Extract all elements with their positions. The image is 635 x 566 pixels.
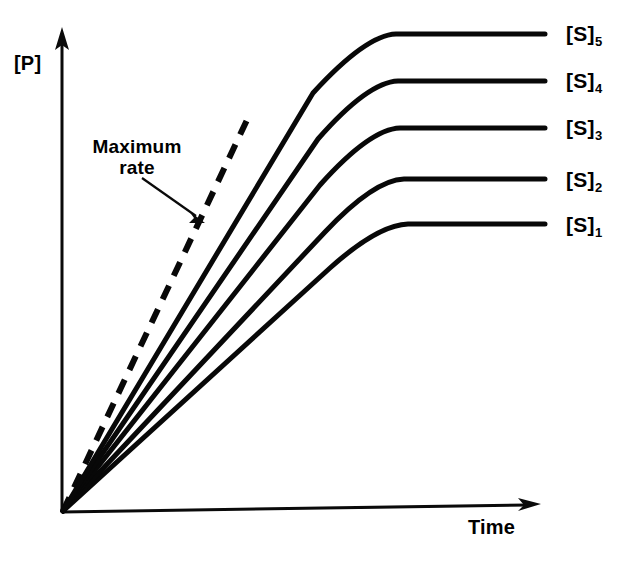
y-axis-label: [P] [14,52,41,75]
enzyme-progress-curve-figure: [P] Time Maximum rate [S]5 [S]4 [S]3 [S]… [0,0,635,566]
progress-curve-s1 [63,224,545,511]
series-label-s4: [S]4 [566,69,602,93]
progress-curve-s3 [63,128,545,511]
series-label-s4-sub: 4 [595,81,602,96]
series-label-s5-sub: 5 [595,34,602,49]
x-axis [62,498,541,512]
series-label-s1: [S]1 [566,213,602,237]
callout-leader-line [142,178,196,216]
series-label-s4-base: [S] [566,69,595,92]
series-label-s3-base: [S] [566,116,595,139]
series-label-s3-sub: 3 [595,128,602,143]
plot-canvas [0,0,635,566]
series-label-s2-sub: 2 [595,180,602,195]
series-label-s5: [S]5 [566,22,602,46]
annotation-callout-arrow [142,178,205,223]
series-label-s1-base: [S] [566,213,595,236]
series-label-s3: [S]3 [566,116,602,140]
progress-curve-s2 [63,179,545,511]
y-axis [55,27,69,512]
series-label-s1-sub: 1 [595,225,602,240]
series-label-s2-base: [S] [566,168,595,191]
maximum-rate-annotation: Maximum rate [62,136,212,179]
progress-curve-s5 [63,34,545,511]
x-axis-label: Time [468,516,515,539]
annotation-line-1: Maximum [92,136,181,157]
series-label-s5-base: [S] [566,22,595,45]
annotation-line-2: rate [119,157,155,178]
x-axis-line [62,505,528,512]
series-label-s2: [S]2 [566,168,602,192]
